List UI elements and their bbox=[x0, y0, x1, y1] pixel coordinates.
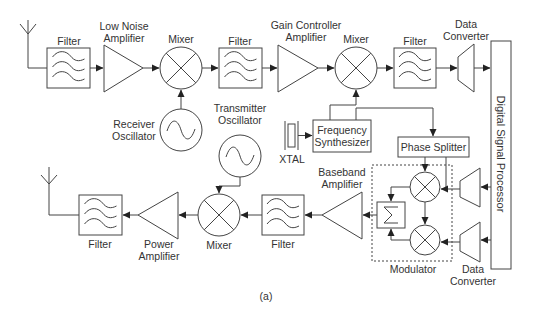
tx-filter-label: Filter bbox=[264, 238, 302, 250]
receiver-oscillator-label-line2: Oscillator bbox=[109, 130, 159, 142]
tx-output-filter-label: Filter bbox=[81, 238, 119, 250]
receiver-oscillator-label-line1: Receiver bbox=[109, 118, 159, 130]
tx-filter-block bbox=[262, 195, 304, 235]
summer-block bbox=[377, 202, 405, 228]
transmitter-oscillator-label-line2: Oscillator bbox=[210, 114, 270, 126]
frequency-synthesizer-label-line1: Frequency bbox=[313, 124, 371, 136]
receiver-oscillator-block bbox=[160, 90, 202, 151]
tx-data-converter-q-block bbox=[460, 222, 480, 262]
antenna-rx-icon bbox=[20, 20, 47, 68]
tx-output-filter-block bbox=[79, 195, 122, 235]
modulator-label: Modulator bbox=[378, 263, 448, 275]
rx-data-converter-block bbox=[458, 44, 474, 92]
xtal-crystal-icon bbox=[285, 121, 312, 150]
power-amplifier-block bbox=[138, 192, 178, 239]
gain-amp-label-line1: Gain Controller bbox=[263, 19, 349, 31]
figure-caption: (a) bbox=[254, 290, 278, 302]
rx-filter-3-label: Filter bbox=[396, 35, 434, 47]
power-amp-label-line1: Power bbox=[134, 238, 184, 250]
rx-data-converter-label-line1: Data bbox=[441, 18, 491, 30]
baseband-amp-label-line2: Amplifier bbox=[312, 178, 372, 190]
lna-label-line1: Low Noise bbox=[95, 20, 153, 32]
transmitter-oscillator-label-line1: Transmitter bbox=[210, 102, 270, 114]
phase-splitter-label: Phase Splitter bbox=[398, 141, 469, 153]
tx-mixer-label: Mixer bbox=[199, 239, 239, 251]
rx-data-converter-label-line2: Converter bbox=[441, 30, 491, 42]
xtal-label: XTAL bbox=[276, 153, 308, 165]
baseband-amplifier-block bbox=[322, 192, 362, 239]
gain-controller-amplifier-block bbox=[278, 45, 318, 92]
rx-mixer-2-label: Mixer bbox=[336, 33, 376, 45]
rx-mixer-1-block bbox=[160, 47, 202, 89]
modulator-mixer-i-block bbox=[410, 172, 440, 202]
dsp-label: Digital Signal Processor bbox=[495, 94, 507, 214]
rx-filter-1-label: Filter bbox=[50, 35, 88, 47]
rf-transceiver-block-diagram: Filter Low Noise Amplifier Mixer Filter … bbox=[0, 0, 535, 312]
low-noise-amplifier-block bbox=[104, 45, 143, 92]
rx-filter-3-block bbox=[394, 48, 436, 88]
rx-mixer-1-label: Mixer bbox=[161, 33, 201, 45]
modulator-mixer-q-block bbox=[410, 225, 440, 255]
tx-data-converter-i-block bbox=[460, 168, 480, 207]
frequency-synthesizer-label-line2: Synthesizer bbox=[313, 136, 371, 148]
tx-mixer-block bbox=[198, 194, 240, 236]
tx-data-converter-label-line1: Data bbox=[448, 263, 498, 275]
rx-filter-1-block bbox=[47, 48, 90, 88]
power-amp-label-line2: Amplifier bbox=[134, 250, 184, 262]
rx-filter-2-block bbox=[219, 48, 262, 88]
transmitter-oscillator-block bbox=[219, 135, 261, 193]
antenna-tx-icon bbox=[41, 167, 79, 215]
lna-label-line2: Amplifier bbox=[95, 32, 153, 44]
baseband-amp-label-line1: Baseband bbox=[312, 166, 372, 178]
rx-mixer-2-block bbox=[335, 47, 377, 89]
tx-data-converter-label-line2: Converter bbox=[448, 275, 498, 287]
rx-filter-2-label: Filter bbox=[221, 35, 259, 47]
